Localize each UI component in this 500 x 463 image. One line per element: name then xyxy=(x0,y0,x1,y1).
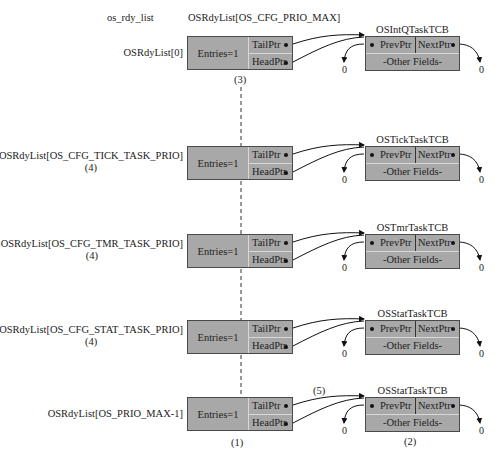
null-right-4: 0 xyxy=(479,425,484,436)
head-dot-icon xyxy=(284,422,288,426)
rdy-list-entry-4: Entries=1 TailPtr HeadPtr xyxy=(187,397,293,431)
other-fields: -Other Fields- xyxy=(366,340,459,351)
null-right-2: 0 xyxy=(479,262,484,273)
null-left-0: 0 xyxy=(342,64,347,75)
next-ptr: NextPtr xyxy=(418,149,451,160)
tcb-name-4: OSStatTaskTCB xyxy=(365,385,460,396)
next-dot-icon xyxy=(451,327,455,331)
tail-dot-icon xyxy=(284,43,288,47)
prev-ptr: PrevPtr xyxy=(380,323,412,334)
tcb-name-0: OSIntQTaskTCB xyxy=(365,24,460,35)
prev-dot-icon xyxy=(370,327,374,331)
head-ptr: HeadPtr xyxy=(252,56,286,67)
tail-dot-icon xyxy=(284,327,288,331)
prev-ptr: PrevPtr xyxy=(380,400,412,411)
prev-dot-icon xyxy=(370,43,374,47)
row-label-4: OSRdyList[OS_PRIO_MAX-1] xyxy=(48,408,183,420)
head-ptr: HeadPtr xyxy=(252,340,286,351)
tcb-name-1: OSTickTaskTCB xyxy=(365,134,460,145)
next-dot-icon xyxy=(451,153,455,157)
head-dot-icon xyxy=(284,259,288,263)
annotation-3: (3) xyxy=(234,74,246,86)
tcb-name-2: OSTmrTaskTCB xyxy=(365,222,460,233)
annotation-1: (1) xyxy=(231,437,243,449)
other-fields: -Other Fields- xyxy=(366,56,459,67)
tail-ptr: TailPtr xyxy=(252,237,280,248)
prev-ptr: PrevPtr xyxy=(380,149,412,160)
null-left-1: 0 xyxy=(342,174,347,185)
rdy-list-entry-1: Entries=1 TailPtr HeadPtr xyxy=(187,146,293,180)
entries-count: Entries=1 xyxy=(188,235,248,267)
head-ptr: HeadPtr xyxy=(252,254,286,265)
other-fields: -Other Fields- xyxy=(366,254,459,265)
row-label-2: OSRdyList[OS_CFG_TMR_TASK_PRIO] (4) xyxy=(1,238,183,262)
tail-ptr: TailPtr xyxy=(252,323,280,334)
annotation-2: (2) xyxy=(404,436,416,448)
row-label-3: OSRdyList[OS_CFG_STAT_TASK_PRIO] (4) xyxy=(0,324,183,348)
tail-ptr: TailPtr xyxy=(252,400,280,411)
other-fields: -Other Fields- xyxy=(366,417,459,428)
tail-ptr: TailPtr xyxy=(252,149,280,160)
tcb-box-3: PrevPtr NextPtr -Other Fields- xyxy=(365,320,460,355)
rdy-list-entry-2: Entries=1 TailPtr HeadPtr xyxy=(187,234,293,268)
next-dot-icon xyxy=(451,43,455,47)
tcb-box-4: PrevPtr NextPtr -Other Fields- xyxy=(365,397,460,432)
head-ptr: HeadPtr xyxy=(252,166,286,177)
entries-count: Entries=1 xyxy=(188,147,248,179)
null-right-0: 0 xyxy=(479,64,484,75)
tail-ptr: TailPtr xyxy=(252,39,280,50)
tcb-name-3: OSStatTaskTCB xyxy=(365,308,460,319)
annotation-5: (5) xyxy=(313,385,325,397)
rdy-list-entry-3: Entries=1 TailPtr HeadPtr xyxy=(187,320,293,354)
tcb-box-1: PrevPtr NextPtr -Other Fields- xyxy=(365,146,460,181)
next-ptr: NextPtr xyxy=(418,237,451,248)
prev-ptr: PrevPtr xyxy=(380,39,412,50)
head-dot-icon xyxy=(284,171,288,175)
rdy-list-entry-0: Entries=1 TailPtr HeadPtr xyxy=(187,36,293,70)
tail-dot-icon xyxy=(284,153,288,157)
next-ptr: NextPtr xyxy=(418,323,451,334)
null-right-1: 0 xyxy=(479,174,484,185)
head-ptr: HeadPtr xyxy=(252,417,286,428)
other-fields: -Other Fields- xyxy=(366,166,459,177)
next-dot-icon xyxy=(451,241,455,245)
tail-dot-icon xyxy=(284,404,288,408)
next-ptr: NextPtr xyxy=(418,400,451,411)
null-left-3: 0 xyxy=(342,348,347,359)
prev-dot-icon xyxy=(370,404,374,408)
entries-count: Entries=1 xyxy=(188,37,248,69)
next-dot-icon xyxy=(451,404,455,408)
entries-count: Entries=1 xyxy=(188,398,248,430)
head-dot-icon xyxy=(284,345,288,349)
row-label-1: OSRdyList[OS_CFG_TICK_TASK_PRIO] (4) xyxy=(0,150,183,174)
prev-dot-icon xyxy=(370,153,374,157)
null-right-3: 0 xyxy=(479,348,484,359)
tail-dot-icon xyxy=(284,241,288,245)
prev-ptr: PrevPtr xyxy=(380,237,412,248)
next-ptr: NextPtr xyxy=(418,39,451,50)
null-left-2: 0 xyxy=(342,262,347,273)
tcb-box-2: PrevPtr NextPtr -Other Fields- xyxy=(365,234,460,269)
entries-count: Entries=1 xyxy=(188,321,248,353)
head-dot-icon xyxy=(284,61,288,65)
null-left-4: 0 xyxy=(342,425,347,436)
prev-dot-icon xyxy=(370,241,374,245)
row-label-0: OSRdyList[0] xyxy=(123,47,183,59)
tcb-box-0: PrevPtr NextPtr -Other Fields- xyxy=(365,36,460,71)
